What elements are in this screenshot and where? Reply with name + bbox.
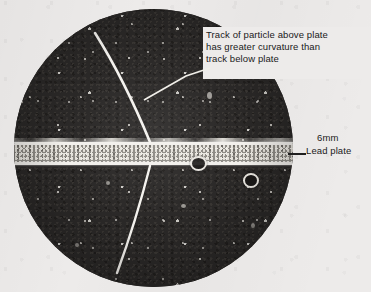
cloud-chamber-figure: Track of particle above plate has greate… xyxy=(0,0,371,292)
plate-label-text: 6mm Lead plate xyxy=(306,131,351,157)
plate-name-value: Lead plate xyxy=(306,144,351,157)
callout-line-2: has greater curvature than xyxy=(206,41,368,53)
track-callout-text: Track of particle above plate has greate… xyxy=(206,29,368,66)
plate-thickness-value: 6mm xyxy=(317,131,351,144)
callout-line-1: Track of particle above plate xyxy=(206,29,368,41)
callout-line-3: track below plate xyxy=(206,53,368,65)
plate-label-leader-line xyxy=(288,153,306,155)
